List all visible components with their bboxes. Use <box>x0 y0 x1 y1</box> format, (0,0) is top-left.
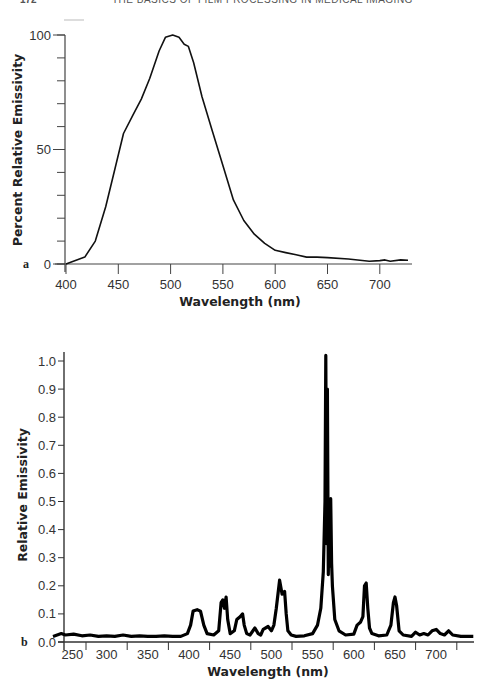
chart-b-y-tick-label: 0.8 <box>38 410 56 425</box>
chart-b-y-axis-title: Relative Emissivity <box>15 428 30 562</box>
chart-b-x-tick-label: 650 <box>384 647 406 662</box>
figure: 050100400450500550600650700 Percent Rela… <box>0 0 488 684</box>
chart-b-y-tick-label: 0.2 <box>38 578 56 593</box>
chart-b-x-tick-label: 350 <box>137 647 159 662</box>
chart-a-x-tick-label: 700 <box>369 277 391 292</box>
chart-b-x-tick-label: 550 <box>302 647 324 662</box>
chart-b-y-tick-label: 1.0 <box>38 354 56 369</box>
chart-a-x-tick-label: 600 <box>264 277 286 292</box>
chart-b-y-tick-label: 0.1 <box>38 606 56 621</box>
chart-b-y-tick-label: 0.6 <box>38 466 56 481</box>
chart-b-x-tick-label: 500 <box>261 647 283 662</box>
chart-b: 0.00.10.20.30.40.50.60.70.80.91.02503003… <box>15 352 474 679</box>
chart-b-y-tick-label: 0.5 <box>38 494 56 509</box>
chart-a-panel-letter: a <box>23 257 29 271</box>
chart-b-x-tick-label: 300 <box>96 647 118 662</box>
chart-a: 050100400450500550600650700 Percent Rela… <box>10 28 412 310</box>
chart-a-x-tick-label: 400 <box>55 277 77 292</box>
chart-b-x-tick-label: 700 <box>425 647 447 662</box>
chart-b-y-tick-label: 0.9 <box>38 382 56 397</box>
chart-b-axes: 0.00.10.20.30.40.50.60.70.80.91.02503003… <box>38 352 474 662</box>
chart-b-y-tick-label: 0.7 <box>38 438 56 453</box>
chart-b-x-tick-label: 250 <box>62 647 84 662</box>
chart-a-x-tick-label: 650 <box>317 277 339 292</box>
chart-a-y-tick-label: 50 <box>37 142 51 157</box>
chart-a-x-tick-label: 550 <box>212 277 234 292</box>
chart-b-x-tick-label: 450 <box>219 647 241 662</box>
chart-a-y-tick-label: 100 <box>29 28 51 43</box>
chart-b-x-tick-label: 600 <box>343 647 365 662</box>
chart-a-x-tick-label: 450 <box>107 277 129 292</box>
chart-a-y-axis-title: Percent Relative Emissivity <box>10 54 25 247</box>
chart-b-x-axis-title: Wavelength (nm) <box>207 664 329 679</box>
chart-a-y-tick-label: 0 <box>44 257 51 272</box>
chart-a-line <box>66 35 408 264</box>
chart-a-x-tick-label: 500 <box>160 277 182 292</box>
chart-b-y-tick-label: 0.3 <box>38 550 56 565</box>
chart-b-panel-letter: b <box>21 635 28 649</box>
chart-b-x-tick-label: 400 <box>178 647 200 662</box>
chart-b-line <box>53 355 473 636</box>
chart-a-x-axis-title: Wavelength (nm) <box>179 294 301 309</box>
chart-b-y-tick-label: 0.4 <box>38 522 56 537</box>
